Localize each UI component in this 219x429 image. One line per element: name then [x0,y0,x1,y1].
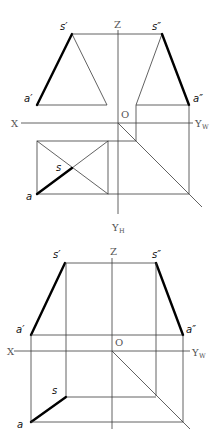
side-line-sa [162,34,189,105]
label-s-top: s [56,162,61,173]
label-a-side: a″ [186,324,196,335]
label-s-side: s″ [152,249,161,260]
label-axis-yw-sub: W [199,352,206,360]
label-a-top: a [26,191,32,202]
bottom-figure: s′ a′ s″ a″ s a X Z O Y W [7,246,206,429]
side-edge-left [136,34,162,105]
top-line-sa [37,168,72,194]
top-figure: s′ a′ s″ a″ s a X Z O Y W Y H [11,19,209,235]
front-edge-right [72,34,107,105]
label-a-top: a [17,419,23,429]
label-axis-yh-sub: H [119,227,125,235]
label-axis-yh: Y [111,222,119,233]
label-origin: O [121,109,129,120]
top-diagonal-2-upper [72,141,108,168]
label-axis-yw: Y [194,118,202,129]
label-axis-yw: Y [191,347,199,358]
side-line-sa [156,263,183,335]
label-axis-z: Z [114,19,121,30]
label-axis-x: X [11,118,19,129]
top-line-sa [31,397,66,422]
front-line-sa [37,34,72,105]
label-axis-z: Z [110,246,117,257]
projection-diagram: s′ a′ s″ a″ s a X Z O Y W Y H s′ a [0,0,219,429]
label-axis-x: X [7,346,15,357]
label-s-side: s″ [152,21,161,32]
label-axis-yw-sub: W [202,123,209,131]
label-s-front: s′ [60,21,68,32]
label-a-side: a″ [193,93,203,104]
label-origin: O [115,337,123,348]
label-a-front: a′ [24,93,33,104]
label-s-top: s [52,385,57,396]
front-line-sa [31,263,65,335]
label-a-front: a′ [16,324,25,335]
label-s-front: s′ [53,249,61,260]
45-degree-line [112,351,190,429]
